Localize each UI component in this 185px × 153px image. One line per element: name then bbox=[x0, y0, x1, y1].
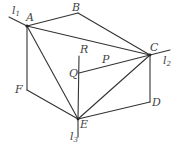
label-A: A bbox=[25, 11, 34, 24]
geometry-diagram: A B C D E F R Q P l1 l2 l3 bbox=[0, 0, 185, 153]
label-l1: l1 bbox=[12, 4, 20, 18]
segment-AB bbox=[27, 13, 78, 26]
line-l1 bbox=[9, 17, 27, 26]
label-P: P bbox=[101, 53, 110, 66]
label-l3: l3 bbox=[70, 130, 79, 144]
segment-RE bbox=[78, 56, 79, 119]
label-Q: Q bbox=[69, 67, 78, 80]
diagram-canvas: A B C D E F R Q P l1 l2 l3 bbox=[0, 0, 185, 153]
label-R: R bbox=[79, 43, 88, 56]
vertex-E-dot bbox=[77, 118, 80, 121]
segment-ED bbox=[78, 102, 150, 119]
vertex-A-dot bbox=[25, 24, 28, 27]
segment-BC bbox=[78, 13, 150, 55]
vertex-C-dot bbox=[149, 54, 152, 57]
label-l2: l2 bbox=[163, 54, 172, 68]
segment-AC bbox=[27, 26, 150, 55]
label-B: B bbox=[71, 1, 80, 14]
label-E: E bbox=[79, 118, 88, 131]
label-F: F bbox=[14, 83, 23, 96]
label-D: D bbox=[151, 96, 161, 109]
label-C: C bbox=[150, 41, 159, 54]
